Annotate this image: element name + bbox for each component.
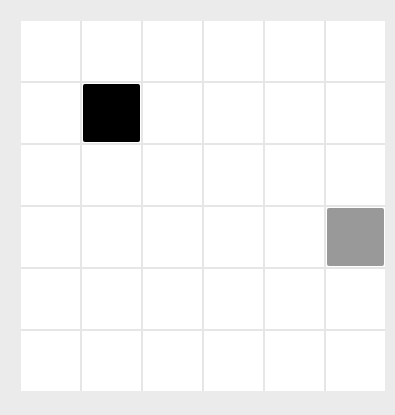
grid-cell-r0-c2[interactable] (143, 21, 202, 81)
grid-cell-r1-c1[interactable] (82, 83, 141, 143)
grid-cell-r5-c4[interactable] (265, 331, 324, 391)
grid-cell-r4-c2[interactable] (143, 269, 202, 329)
grid-cell-r2-c3[interactable] (204, 145, 263, 205)
grid-cell-r4-c0[interactable] (21, 269, 80, 329)
grid-cell-r5-c1[interactable] (82, 331, 141, 391)
grid-cell-r2-c1[interactable] (82, 145, 141, 205)
grid-cell-r3-c4[interactable] (265, 207, 324, 267)
grid-cell-r5-c2[interactable] (143, 331, 202, 391)
grid-cell-r1-c0[interactable] (21, 83, 80, 143)
grid-cell-r2-c5[interactable] (326, 145, 385, 205)
black-square[interactable] (83, 84, 140, 142)
grid-cell-r0-c0[interactable] (21, 21, 80, 81)
grid-cell-r2-c4[interactable] (265, 145, 324, 205)
grid-cell-r3-c3[interactable] (204, 207, 263, 267)
grid-cell-r1-c4[interactable] (265, 83, 324, 143)
grid-cell-r3-c1[interactable] (82, 207, 141, 267)
grid-cell-r0-c5[interactable] (326, 21, 385, 81)
grid-cell-r2-c0[interactable] (21, 145, 80, 205)
grid-cell-r4-c4[interactable] (265, 269, 324, 329)
grid-cell-r3-c2[interactable] (143, 207, 202, 267)
grid-cell-r5-c5[interactable] (326, 331, 385, 391)
grid-cell-r0-c1[interactable] (82, 21, 141, 81)
grid-cell-r1-c3[interactable] (204, 83, 263, 143)
grid-cell-r4-c1[interactable] (82, 269, 141, 329)
grid-cell-r4-c3[interactable] (204, 269, 263, 329)
grid-cell-r4-c5[interactable] (326, 269, 385, 329)
grid-cell-r1-c5[interactable] (326, 83, 385, 143)
grid-cell-r5-c0[interactable] (21, 331, 80, 391)
gray-square[interactable] (327, 208, 384, 266)
grid-cell-r3-c0[interactable] (21, 207, 80, 267)
grid-cell-r5-c3[interactable] (204, 331, 263, 391)
grid-cell-r0-c4[interactable] (265, 21, 324, 81)
grid-cell-r2-c2[interactable] (143, 145, 202, 205)
grid-cell-r0-c3[interactable] (204, 21, 263, 81)
grid-cell-r3-c5[interactable] (326, 207, 385, 267)
grid-cell-r1-c2[interactable] (143, 83, 202, 143)
game-board (21, 21, 385, 391)
